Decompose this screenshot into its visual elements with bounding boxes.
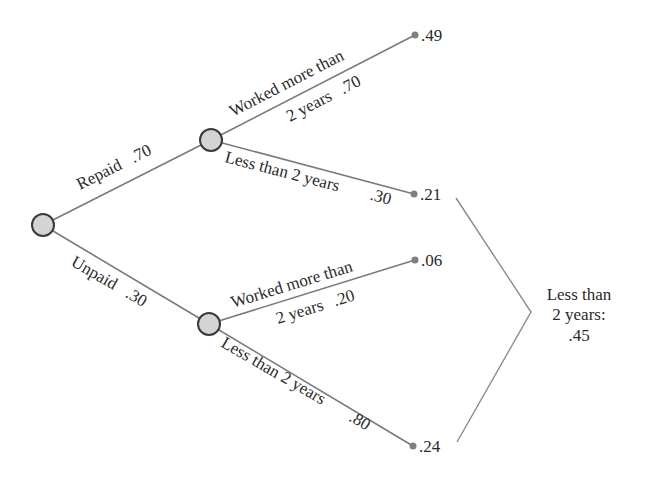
leaf-value-unpaid-less: .24: [419, 437, 441, 456]
prob-repaid-less: .30: [368, 185, 393, 209]
edge-repaid-worked: [211, 35, 415, 140]
summary-bracket: [456, 198, 531, 442]
leaf-value-repaid-less: .21: [420, 185, 441, 204]
leaf-dot-unpaid-less: [410, 443, 417, 450]
prob-unpaid-less: .80: [346, 407, 374, 434]
label-unpaid: Unpaid: [68, 252, 121, 294]
root-node: [32, 214, 54, 236]
edge-root-unpaid: [43, 225, 209, 324]
label-unpaid-less: Less than 2 years: [218, 333, 329, 408]
leaf-value-repaid-worked: .49: [421, 26, 442, 45]
summary-line2: 2 years:: [552, 305, 605, 324]
prob-unpaid-worked: .20: [331, 286, 357, 310]
unpaid-node: [198, 313, 220, 335]
prob-repaid-worked: .70: [336, 71, 364, 98]
repaid-node: [200, 129, 222, 151]
summary-line3: .45: [568, 326, 589, 345]
leaf-dot-repaid-worked: [412, 32, 419, 39]
label-repaid-less: Less than 2 years: [223, 147, 342, 195]
edge-root-repaid: [43, 140, 211, 225]
probability-tree-diagram: Repaid .70 Unpaid .30 Worked more than 2…: [0, 0, 645, 492]
prob-repaid: .70: [127, 140, 154, 166]
label-unpaid-worked-line2: 2 years: [274, 295, 326, 327]
label-repaid-worked-line2: 2 years: [283, 86, 335, 125]
prob-unpaid: .30: [123, 284, 151, 311]
summary-line1: Less than: [547, 285, 612, 304]
leaf-value-unpaid-worked: .06: [421, 251, 442, 270]
leaf-dot-unpaid-worked: [412, 257, 419, 264]
leaf-dot-repaid-less: [411, 191, 418, 198]
